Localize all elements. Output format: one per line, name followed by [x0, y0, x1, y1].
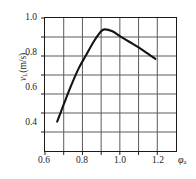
x-axis-title: φa	[178, 155, 186, 166]
x-tick-label-1: 0.6	[33, 156, 55, 166]
data-curve	[45, 18, 176, 151]
y-axis-title: vL(m/s)	[19, 39, 29, 95]
x-tick-label-3: 1.0	[109, 156, 131, 166]
y-tick-label-4: 0.4	[15, 118, 37, 128]
y-tick-label-1: 1.0	[15, 13, 37, 23]
series-line-0	[57, 29, 155, 121]
y-axis-title-unit: (m/s)	[18, 53, 28, 73]
y-axis-title-symbol: v	[18, 77, 28, 81]
x-tick-label-4: 1.2	[147, 156, 169, 166]
x-tick-label-2: 0.8	[71, 156, 93, 166]
y-axis-title-subscript: L	[21, 73, 28, 77]
plot-area	[44, 17, 177, 152]
chart-figure: 1.0 0.8 0.6 0.4 0.6 0.8 1.0 1.2 vL(m/s) …	[0, 0, 196, 179]
x-axis-title-subscript: a	[184, 158, 187, 165]
